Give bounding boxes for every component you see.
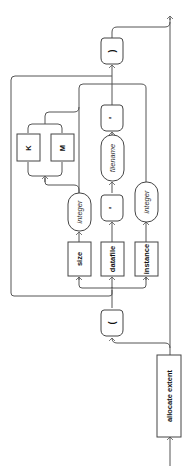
keyword-size: size (68, 242, 91, 276)
keyword-instance: instance (135, 242, 158, 276)
svg-text:filename: filename (108, 144, 117, 172)
svg-text:allocate extent: allocate extent (165, 369, 174, 422)
nonterminal-filename: filename (101, 135, 124, 181)
terminal-close-paren: ) (101, 38, 123, 64)
svg-text:(: ( (107, 322, 117, 325)
keyword-datafile: datafile (101, 242, 124, 276)
keyword-allocate-extent: allocate extent (157, 355, 181, 437)
svg-text:): ) (107, 50, 117, 53)
terminal-quote-close: ' (101, 105, 123, 131)
syntax-diagram: allocate extent ( size integer K M dataf… (0, 0, 182, 466)
svg-text:': ' (107, 207, 117, 209)
nonterminal-integer-instance: integer (135, 182, 158, 222)
unit-k: K (17, 134, 40, 161)
svg-text:integer: integer (142, 190, 151, 213)
diagram-lines (11, 16, 170, 466)
terminal-open-paren: ( (101, 310, 123, 336)
svg-text:K: K (24, 145, 33, 151)
nonterminal-integer-size: integer (68, 193, 91, 231)
svg-text:integer: integer (75, 200, 84, 223)
svg-text:size: size (75, 252, 84, 266)
terminal-quote-open: ' (101, 195, 123, 221)
svg-text:M: M (58, 145, 67, 151)
svg-text:datafile: datafile (108, 246, 117, 272)
unit-m: M (51, 134, 74, 161)
svg-text:instance: instance (142, 244, 151, 274)
svg-text:': ' (107, 117, 117, 119)
